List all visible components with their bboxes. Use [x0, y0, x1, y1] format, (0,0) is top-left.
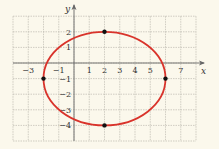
axes — [13, 4, 205, 141]
x-tick-label: 7 — [178, 66, 183, 75]
x-tick-label: 3 — [117, 66, 122, 75]
data-point — [102, 123, 106, 127]
tick-labels: −3−112345721−1−2−3−4 — [22, 28, 183, 131]
x-tick-label: 5 — [148, 66, 153, 75]
x-tick-label: −3 — [22, 66, 34, 75]
data-point — [163, 76, 167, 80]
ellipse-chart: −3−112345721−1−2−3−4 x y — [0, 0, 219, 149]
y-axis-label: y — [64, 4, 71, 14]
x-tick-label: 4 — [132, 66, 137, 75]
y-tick-label: −1 — [59, 75, 71, 84]
data-point — [102, 30, 106, 34]
y-tick-label: 2 — [66, 28, 71, 37]
y-tick-label: −4 — [59, 121, 71, 130]
x-tick-label: 1 — [87, 66, 92, 75]
y-tick-label: 1 — [66, 43, 71, 52]
x-axis-label: x — [201, 66, 206, 76]
grid — [13, 16, 196, 141]
y-tick-label: −2 — [59, 90, 71, 99]
data-point — [41, 76, 45, 80]
x-tick-label: 2 — [102, 66, 107, 75]
